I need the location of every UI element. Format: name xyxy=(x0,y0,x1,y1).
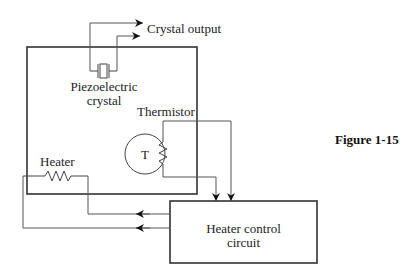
heater-label: Heater xyxy=(40,155,75,169)
crystal-output-wire-2 xyxy=(117,36,140,71)
control-label-line1: Heater control xyxy=(170,222,317,236)
heater-resistor-icon xyxy=(23,171,88,181)
control-label-line2: circuit xyxy=(170,236,317,250)
crystal-output-label: Crystal output xyxy=(147,22,221,36)
thermistor-symbol: T xyxy=(141,148,149,162)
piezo-label-line2: crystal xyxy=(62,94,146,108)
figure-caption: Figure 1-15 xyxy=(335,133,399,147)
piezo-crystal-label: Piezoelectric crystal xyxy=(62,80,146,108)
heater-control-label: Heater control circuit xyxy=(170,222,317,250)
heater-wire-left xyxy=(23,176,170,228)
piezo-label-line1: Piezoelectric xyxy=(62,80,146,94)
thermistor-zigzag xyxy=(159,137,167,169)
thermistor-label: Thermistor xyxy=(137,105,195,119)
heater-wire-right xyxy=(88,176,170,214)
thermistor-wire-bottom xyxy=(163,169,216,201)
piezo-crystal-icon xyxy=(90,64,117,78)
